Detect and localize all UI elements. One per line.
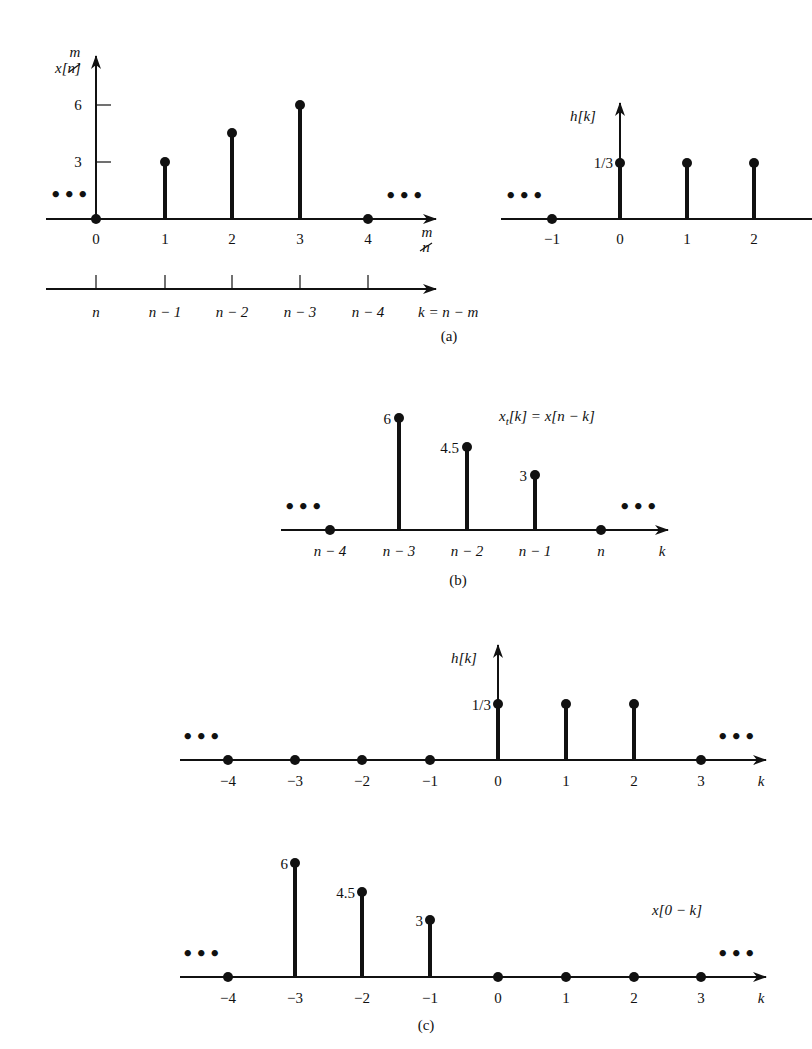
value-label: 6	[281, 856, 289, 872]
xtick-label: −1	[422, 990, 438, 1006]
plot-title: xt[k] = x[n − k]	[498, 408, 595, 427]
ylabel-superscript: m	[70, 44, 81, 60]
stem-dot	[596, 525, 606, 535]
ellipsis-right: •••	[619, 496, 660, 517]
ytick-label: 3	[74, 154, 82, 170]
stem-dot-2	[227, 128, 237, 138]
k-tick-label: n − 4	[352, 304, 385, 320]
stem-dot	[462, 442, 472, 452]
xtick-label: 4	[364, 231, 372, 247]
xtick-label: n − 2	[451, 543, 484, 559]
xtick-label: 3	[296, 231, 304, 247]
stem-dot-1	[160, 157, 170, 167]
xtick-label: 1	[562, 773, 570, 789]
ellipsis-right: •••	[717, 943, 758, 964]
ellipsis-left: •••	[505, 185, 546, 206]
xtick-label: −2	[354, 773, 370, 789]
stem-dot	[530, 470, 540, 480]
k-tick-label: n − 1	[149, 304, 182, 320]
xtick-label: 0	[494, 773, 502, 789]
xtick-label: 3	[697, 990, 705, 1006]
xtick-label: −3	[287, 990, 303, 1006]
panel-c-h-plot: h[k] 1/3 −4 −3 −2 −1 0 1 2 3 k ••• •••	[180, 645, 766, 789]
xtick-label: 0	[616, 231, 624, 247]
panel-c-x-plot: 6 4.5 3 x[0 − k] −4 −3 −2 −1 0 1 2 3 k •…	[180, 856, 766, 1006]
stem-dot-4	[363, 214, 373, 224]
panel-a-h-plot: h[k] 1/3 −1 0 1 2 •••	[501, 103, 812, 247]
xtick-label: 2	[228, 231, 236, 247]
stem-dot-3	[295, 100, 305, 110]
value-label: 6	[384, 411, 392, 427]
panel-a-x-plot: 6 3 m x[n] 0 1 2 3 4 m n ••• ••• n n −	[46, 44, 478, 320]
xlabel: k	[758, 773, 765, 789]
figure-canvas: 6 3 m x[n] 0 1 2 3 4 m n ••• ••• n n −	[0, 0, 812, 1049]
ellipsis-left: •••	[182, 726, 223, 747]
xtick-label: −2	[354, 990, 370, 1006]
k-tick-label: n − 3	[284, 304, 317, 320]
ellipsis-right: •••	[717, 726, 758, 747]
ellipsis-right: •••	[385, 185, 426, 206]
xtick-label: −1	[422, 773, 438, 789]
xtick-label: −3	[287, 773, 303, 789]
stem-dot	[325, 525, 335, 535]
k-axis-label: k = n − m	[418, 304, 478, 320]
xlabel: k	[659, 543, 666, 559]
xtick-label: 1	[562, 990, 570, 1006]
plot-title: x[0 − k]	[651, 902, 702, 918]
xtick-label: 0	[494, 990, 502, 1006]
xlabel: k	[758, 990, 765, 1006]
ytick-label: 6	[74, 97, 82, 113]
value-label: 4.5	[336, 885, 355, 901]
xtick-label: −4	[220, 990, 236, 1006]
ellipsis-left: •••	[50, 184, 91, 205]
panel-b-plot: 6 4.5 3 xt[k] = x[n − k] n − 4 n − 3 n −…	[281, 408, 668, 559]
xtick-label: 3	[697, 773, 705, 789]
xtick-label: 1	[161, 231, 169, 247]
xtick-label: −1	[544, 231, 560, 247]
caption-c: (c)	[418, 1017, 435, 1034]
ellipsis-left: •••	[284, 496, 325, 517]
stem-dot-0	[615, 158, 625, 168]
caption-b: (b)	[449, 572, 467, 589]
xtick-label: n	[597, 543, 605, 559]
value-label: 4.5	[440, 440, 459, 456]
xtick-label: n − 4	[314, 543, 347, 559]
xtick-label: 1	[683, 231, 691, 247]
xtick-label: n − 3	[383, 543, 416, 559]
value-label: 1/3	[472, 697, 491, 713]
stem-dot-2	[749, 158, 759, 168]
stem-dot	[394, 413, 404, 423]
value-label: 3	[416, 913, 424, 929]
stem-dot-1	[682, 158, 692, 168]
xtick-label: −4	[220, 773, 236, 789]
k-tick-label: n − 2	[216, 304, 249, 320]
xtick-label: n − 1	[519, 543, 552, 559]
stem-dot-0	[91, 214, 101, 224]
xtick-label: 2	[750, 231, 758, 247]
xtick-label: 2	[630, 990, 638, 1006]
ellipsis-left: •••	[182, 943, 223, 964]
ylabel: h[k]	[451, 650, 477, 666]
stem-dot--1	[547, 214, 557, 224]
caption-a: (a)	[441, 328, 458, 345]
xlabel-top: m	[422, 224, 433, 240]
ylabel: h[k]	[570, 108, 596, 124]
ylabel: x[n]	[54, 60, 81, 76]
k-tick-label: n	[92, 304, 100, 320]
xtick-label: 0	[92, 231, 100, 247]
value-label: 3	[520, 468, 528, 484]
value-label: 1/3	[594, 155, 613, 171]
xtick-label: 2	[630, 773, 638, 789]
